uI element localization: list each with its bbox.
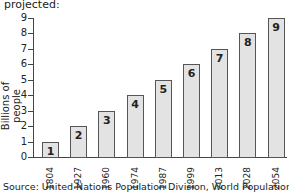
bar-value-label: 3: [98, 114, 115, 127]
bar-value-label: 7: [211, 52, 228, 65]
y-tick: [28, 157, 33, 158]
y-tick-label: 6: [17, 59, 27, 69]
bar-value-label: 9: [268, 21, 285, 34]
y-tick: [28, 111, 33, 112]
bar-value-label: 6: [183, 67, 200, 80]
y-tick-label: 8: [17, 28, 27, 38]
y-tick-label: 7: [17, 44, 27, 54]
y-tick-label: 9: [17, 13, 27, 23]
bar: [239, 33, 256, 158]
chart-title: projected:: [4, 0, 60, 11]
y-tick: [28, 80, 33, 81]
source-note: Source: United Nations Population Divisi…: [3, 181, 289, 192]
y-tick: [28, 33, 33, 34]
bar: [211, 49, 228, 158]
y-tick-label: 4: [17, 90, 27, 100]
bar-value-label: 8: [239, 36, 256, 49]
y-tick: [28, 95, 33, 96]
bar-value-label: 2: [70, 129, 87, 142]
bar: [268, 18, 285, 158]
y-tick-label: 0: [17, 152, 27, 162]
bar-value-label: 1: [42, 145, 59, 158]
y-tick: [28, 142, 33, 143]
y-tick: [28, 126, 33, 127]
bar-value-label: 5: [155, 83, 172, 96]
bar-value-label: 4: [127, 98, 144, 111]
y-tick-label: 5: [17, 75, 27, 85]
y-tick-label: 3: [17, 106, 27, 116]
y-tick-label: 1: [17, 137, 27, 147]
y-tick: [28, 18, 33, 19]
y-tick: [28, 64, 33, 65]
y-axis-line: [33, 18, 34, 158]
y-tick: [28, 49, 33, 50]
y-tick-label: 2: [17, 121, 27, 131]
